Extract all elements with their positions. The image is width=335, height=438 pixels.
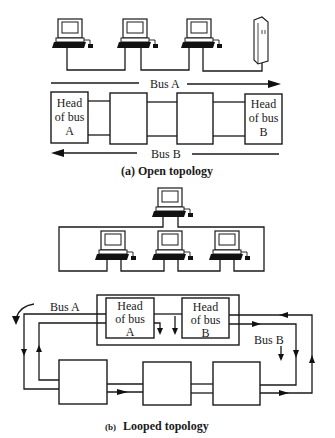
open-topology: Bus A Head of bus A Head of bus B Bus B … bbox=[51, 17, 282, 178]
loop-head-b-line2: of bus bbox=[191, 313, 221, 327]
node-box bbox=[143, 362, 191, 405]
workstation-icon bbox=[152, 188, 193, 217]
dqdb-topology-diagram: Bus A Head of bus A Head of bus B Bus B … bbox=[0, 0, 335, 438]
head-b-line1: Head bbox=[251, 97, 276, 111]
looped-topology: Head of bus A Head of bus B Bus A bbox=[12, 188, 315, 433]
workstation-icon bbox=[152, 231, 193, 260]
node-box bbox=[59, 360, 107, 404]
loop-head-b-line3: B bbox=[201, 326, 209, 340]
loop-bus-a-label: Bus A bbox=[50, 300, 80, 314]
loop-head-a-line2: of bus bbox=[115, 312, 145, 326]
server-icon bbox=[254, 17, 268, 64]
node-box bbox=[177, 93, 213, 144]
caption-prefix: (b) bbox=[105, 422, 116, 432]
workstation-icon bbox=[117, 19, 158, 48]
node-box bbox=[213, 362, 260, 405]
loop-head-a-line3: A bbox=[126, 325, 135, 339]
node-box bbox=[110, 93, 147, 144]
workstation-icon bbox=[95, 231, 136, 260]
loop-bus-b-label: Bus B bbox=[254, 333, 284, 347]
head-b-line2: of bus bbox=[249, 111, 279, 125]
workstation-icon bbox=[181, 19, 222, 48]
workstation-icon bbox=[209, 231, 250, 260]
bus-a-label: Bus A bbox=[150, 77, 180, 91]
loop-head-b-line1: Head bbox=[193, 300, 218, 314]
caption-open-topology: (a) Open topology bbox=[121, 164, 213, 178]
head-a-line1: Head bbox=[57, 96, 82, 110]
bus-b-label: Bus B bbox=[151, 147, 181, 161]
head-a-line2: of bus bbox=[55, 110, 85, 124]
head-b-line3: B bbox=[259, 125, 267, 139]
workstation-icon bbox=[52, 19, 93, 48]
loop-head-a-line1: Head bbox=[117, 299, 142, 313]
caption-looped-topology: Looped topology bbox=[123, 419, 209, 433]
head-a-line3: A bbox=[65, 124, 74, 138]
